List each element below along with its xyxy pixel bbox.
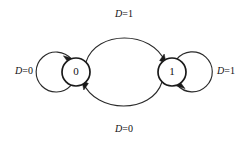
label-transition-0-to-1: D=1 [114,8,133,19]
label-transition-1-to-0: D=0 [114,123,133,134]
state-node-0[interactable]: 0 [62,58,90,86]
label-self-loop-state-1-value: =1 [224,65,235,76]
transition-1-to-0 [82,81,162,106]
transition-0-to-1-path [86,38,165,62]
state-node-1-label: 1 [169,65,175,77]
state-diagram-svg: 0 1 D=0 D=1 D=0 D=1 [0,0,248,143]
transition-0-to-1 [86,38,166,63]
label-transition-0-to-1-value: =1 [122,8,133,19]
label-self-loop-state-0: D=0 [14,65,33,76]
state-node-1[interactable]: 1 [158,58,186,86]
state-diagram-canvas: 0 1 D=0 D=1 D=0 D=1 [0,0,248,143]
state-node-0-label: 0 [73,65,79,77]
transition-1-to-0-path [83,82,162,106]
label-transition-1-to-0-value: =0 [122,123,133,134]
label-self-loop-state-1: D=1 [216,65,235,76]
label-self-loop-state-0-value: =0 [22,65,33,76]
